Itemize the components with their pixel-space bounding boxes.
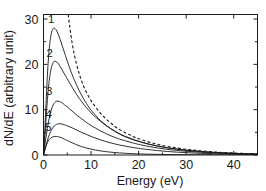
x-tick-label: 40: [227, 158, 241, 172]
curve-label-4: 4: [46, 108, 53, 120]
curve-label-5: 5: [45, 121, 51, 133]
y-axis-ticks-right: [254, 19, 258, 155]
x-tick-label: 20: [132, 158, 146, 172]
curve-label-1: 1: [48, 13, 54, 25]
y-axis-title: dN/dE (arbitrary unit): [2, 30, 16, 146]
curve-4: [44, 124, 258, 155]
y-tick-label: 0: [32, 149, 39, 163]
curve-label-2: 2: [46, 47, 52, 59]
x-tick-label: 30: [179, 158, 193, 172]
curve-annotations: 12345: [45, 13, 54, 133]
y-tick-label: 10: [25, 103, 39, 117]
x-axis-ticks-top: [44, 15, 234, 19]
x-axis-title: Energy (eV): [117, 174, 184, 188]
y-tick-label: 20: [25, 58, 39, 72]
curve-2: [44, 61, 258, 155]
curve-3: [44, 101, 258, 155]
curve-1: [44, 28, 258, 155]
y-tick-labels: 0102030: [25, 13, 39, 163]
curve-label-3: 3: [46, 85, 52, 97]
x-tick-label: 10: [84, 158, 98, 172]
axes-box: [44, 15, 258, 156]
chart-svg: 010203040 0102030 12345 Energy (eV) dN/d…: [0, 0, 266, 191]
x-tick-label: 0: [40, 158, 47, 172]
chart-figure: 010203040 0102030 12345 Energy (eV) dN/d…: [0, 0, 266, 191]
plot-frame: [44, 15, 258, 156]
x-tick-labels: 010203040: [40, 158, 241, 172]
figure-page: 010203040 0102030 12345 Energy (eV) dN/d…: [0, 0, 266, 191]
data-curves: [44, 15, 258, 156]
curve-dashed: [68, 15, 257, 154]
y-tick-label: 30: [25, 13, 39, 27]
